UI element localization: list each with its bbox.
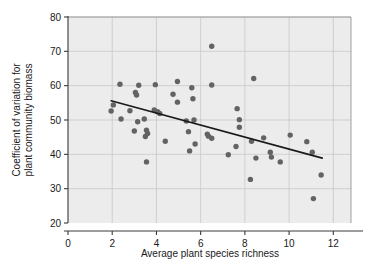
data-point: [237, 117, 242, 122]
data-point: [145, 131, 150, 136]
data-point: [209, 135, 214, 140]
scatter-plot-svg: 20304050607080024681012 Average plant sp…: [0, 0, 374, 269]
data-point: [237, 125, 242, 130]
data-point: [170, 92, 175, 97]
data-point: [111, 102, 116, 107]
data-point: [190, 96, 195, 101]
y-tick-label: 20: [50, 218, 62, 229]
data-point: [117, 82, 122, 87]
data-point: [261, 135, 266, 140]
data-point: [209, 82, 214, 87]
data-point: [136, 83, 141, 88]
x-axis-label: Average plant species richness: [141, 248, 279, 259]
data-point: [187, 148, 192, 153]
y-tick-label: 50: [50, 115, 62, 126]
data-point: [127, 108, 132, 113]
y-tick-label: 40: [50, 149, 62, 160]
data-point: [163, 139, 168, 144]
data-point: [226, 152, 231, 157]
data-point: [132, 128, 137, 133]
y-tick-label: 70: [50, 46, 62, 57]
y-axis-label-line-1: Coefficient of variation for: [11, 63, 22, 177]
data-point: [304, 139, 309, 144]
data-point: [318, 172, 323, 177]
y-tick-label: 60: [50, 80, 62, 91]
data-point: [175, 99, 180, 104]
data-point: [311, 196, 316, 201]
data-point: [175, 79, 180, 84]
data-point: [209, 43, 214, 48]
data-point: [234, 106, 239, 111]
data-point: [186, 129, 191, 134]
data-point: [248, 177, 253, 182]
data-point: [108, 108, 113, 113]
y-tick-label: 30: [50, 183, 62, 194]
x-tick-label: 12: [328, 238, 340, 249]
data-point: [189, 85, 194, 90]
data-point: [153, 82, 158, 87]
data-point: [233, 144, 238, 149]
data-point: [251, 76, 256, 81]
y-axis-label-line-2: plant community biomass: [23, 64, 34, 177]
x-tick-label: 10: [284, 238, 296, 249]
data-point: [134, 92, 139, 97]
data-point: [144, 159, 149, 164]
data-point: [192, 141, 197, 146]
data-point: [142, 116, 147, 121]
data-point: [191, 117, 196, 122]
chart-figure: 20304050607080024681012 Average plant sp…: [0, 0, 374, 269]
y-tick-label: 80: [50, 12, 62, 23]
data-point: [253, 155, 258, 160]
data-point: [268, 150, 273, 155]
x-tick-label: 0: [65, 238, 71, 249]
data-point: [269, 154, 274, 159]
data-point: [278, 159, 283, 164]
x-tick-label: 2: [109, 238, 115, 249]
data-point: [287, 132, 292, 137]
data-point: [118, 116, 123, 121]
data-point: [135, 119, 140, 124]
